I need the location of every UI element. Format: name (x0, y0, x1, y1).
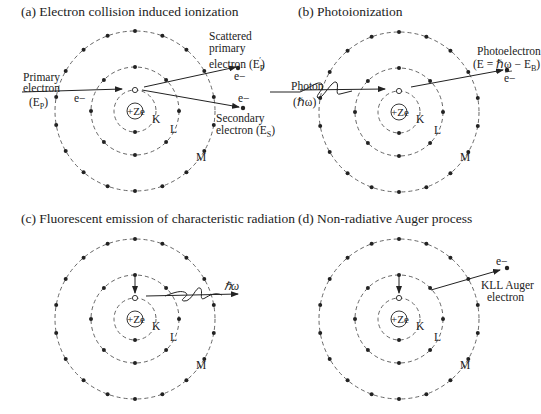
m-shell-electron (476, 331, 480, 335)
l-shell-electron (177, 109, 181, 113)
m-shell-electron (212, 95, 216, 99)
panel-b-title: (b) Photoionization (298, 4, 403, 19)
l-shell-electron (89, 109, 93, 113)
l-shell-electron (133, 153, 137, 157)
l-shell-electron (428, 141, 432, 145)
shell-l-label: L (170, 123, 177, 136)
m-shell-electron (106, 392, 110, 396)
k-shell-electron (133, 130, 137, 134)
l-shell-electron (102, 140, 106, 144)
m-shell-electron (82, 256, 86, 260)
m-shell-electron (318, 331, 322, 335)
m-shell-electron (160, 184, 164, 188)
m-shell-electron (328, 357, 332, 361)
shell-m-label: M (196, 151, 206, 164)
panel-c-arrows (135, 276, 238, 301)
shell-m-label: M (460, 151, 470, 164)
m-shell-electron (133, 189, 137, 193)
shell-l-label: L (170, 331, 177, 344)
m-shell-electron (328, 150, 332, 154)
l-shell-electron (397, 66, 401, 70)
m-shell-electron (424, 185, 428, 189)
l-shell-electron (428, 286, 432, 290)
auger-label-2: electron (487, 291, 524, 304)
l-shell-electron (353, 317, 357, 321)
m-shell-electron (424, 392, 428, 396)
l-shell-electron (102, 286, 106, 290)
m-shell-electron (106, 242, 110, 246)
m-shell-electron (476, 124, 480, 128)
l-shell-electron (133, 361, 137, 365)
l-shell-electron (366, 141, 370, 145)
m-shell-electron (448, 256, 452, 260)
m-shell-electron (133, 397, 137, 401)
nucleus-label: +Ze (391, 313, 409, 326)
l-shell-electron (397, 154, 401, 158)
m-shell-electron (184, 256, 188, 260)
k-shell-electron (133, 338, 137, 342)
nucleus-label: +Ze (391, 106, 409, 119)
m-shell-electron (106, 184, 110, 188)
m-shell-electron (448, 378, 452, 382)
m-shell-electron (184, 170, 188, 174)
m-shell-electron (466, 70, 470, 74)
photoelectron-symbol: e− (504, 72, 516, 85)
m-shell-electron (397, 397, 401, 401)
primary-label-2: electron (23, 82, 60, 95)
m-shell-electron (448, 49, 452, 53)
m-shell-electron (397, 237, 401, 241)
k-shell-vacancy (396, 88, 401, 93)
l-shell-electron (353, 110, 357, 114)
shell-k-label: K (416, 320, 424, 333)
primary-energy-label: (EP) (29, 96, 48, 113)
m-shell-electron (54, 303, 58, 307)
l-shell-electron (177, 317, 181, 321)
shell-m-label: M (460, 359, 470, 372)
secondary-electron-symbol: e− (238, 92, 250, 105)
m-shell-electron (318, 303, 322, 307)
photoelectron-label: Photoelectron (477, 45, 541, 58)
k-shell-vacancy (132, 87, 137, 92)
m-shell-electron (346, 49, 350, 53)
m-shell-electron (370, 35, 374, 39)
panel-d-title: (d) Non-radiative Auger process (298, 211, 472, 226)
xray-wave (165, 288, 222, 301)
l-shell-electron (397, 361, 401, 365)
l-shell-electron (428, 79, 432, 83)
l-shell-electron (89, 317, 93, 321)
m-shell-electron (133, 237, 137, 241)
m-shell-electron (346, 378, 350, 382)
l-shell-electron (366, 79, 370, 83)
m-shell-electron (318, 124, 322, 128)
m-shell-electron (328, 70, 332, 74)
shell-m-label: M (196, 359, 206, 372)
m-shell-electron (476, 303, 480, 307)
m-shell-electron (64, 69, 68, 73)
k-shell-electron (397, 338, 401, 342)
m-shell-electron (82, 378, 86, 382)
photon-label: Photon (291, 80, 324, 93)
panel-c-title: (c) Fluorescent emission of characterist… (21, 211, 295, 226)
m-shell-electron (64, 277, 68, 281)
l-shell-electron (441, 110, 445, 114)
m-shell-electron (133, 29, 137, 33)
auger-electron-symbol: e− (496, 255, 508, 268)
m-shell-electron (64, 149, 68, 153)
m-shell-electron (184, 48, 188, 52)
m-shell-electron (54, 95, 58, 99)
m-shell-electron (54, 123, 58, 127)
m-shell-electron (82, 48, 86, 52)
l-shell-electron (102, 78, 106, 82)
photon-energy-label: (ℏω) (293, 96, 316, 109)
k-shell-vacancy (132, 295, 137, 300)
m-shell-electron (160, 242, 164, 246)
m-shell-electron (202, 69, 206, 73)
m-shell-electron (476, 96, 480, 100)
m-shell-electron (202, 277, 206, 281)
l-shell-electron (164, 140, 168, 144)
l-shell-electron (428, 348, 432, 352)
l-shell-electron (164, 78, 168, 82)
incident-electron-symbol: e− (74, 92, 86, 105)
m-shell-electron (106, 34, 110, 38)
